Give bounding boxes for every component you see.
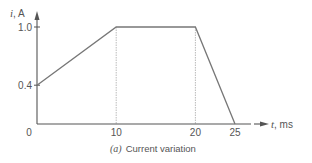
y-tick-label: 0.4 xyxy=(18,80,32,91)
current-variation-chart: 0.41.0 0102025 i, A t, ms (a)Current var… xyxy=(0,0,312,163)
x-tick-label: 0 xyxy=(26,127,32,138)
series xyxy=(37,27,235,124)
axes xyxy=(35,11,270,127)
x-axis-arrow-icon xyxy=(260,122,269,127)
x-tick-label: 25 xyxy=(229,127,241,138)
chart-caption: (a)Current variation xyxy=(110,143,196,155)
x-ticks: 0102025 xyxy=(26,127,241,138)
x-tick-label: 10 xyxy=(111,127,123,138)
guide-lines xyxy=(116,27,195,124)
series-line-current xyxy=(37,27,235,124)
y-axis-unit: , A xyxy=(13,8,25,19)
y-axis-label: i, A xyxy=(10,7,25,19)
y-tick-label: 1.0 xyxy=(18,22,32,33)
caption-prefix: (a) xyxy=(110,143,122,155)
y-axis-arrow-icon xyxy=(35,11,40,20)
x-tick-label: 20 xyxy=(190,127,202,138)
caption-text: Current variation xyxy=(126,143,196,154)
x-axis-unit: , ms xyxy=(274,119,293,130)
x-axis-label: t, ms xyxy=(271,118,293,130)
